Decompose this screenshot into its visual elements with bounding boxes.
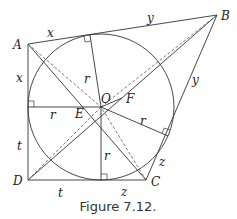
side-bc xyxy=(146,15,217,180)
dashed-do xyxy=(28,107,101,180)
label-ad-x: x xyxy=(16,71,23,85)
radius-top xyxy=(90,35,101,107)
label-o: O xyxy=(101,92,111,106)
label-r-bottom: r xyxy=(104,149,111,163)
label-ab-x: x xyxy=(47,26,54,40)
diagonal-ac xyxy=(28,44,146,180)
label-d: D xyxy=(12,174,23,188)
label-f: F xyxy=(125,92,135,106)
quadrilateral-incircle-diagram: A B C D O E F x y x t t z y z r r r r Fi… xyxy=(0,0,237,219)
label-bc-y: y xyxy=(191,73,199,87)
right-angle-right xyxy=(162,128,170,133)
label-c: C xyxy=(151,175,160,189)
label-ad-t: t xyxy=(17,139,22,153)
right-angle-left xyxy=(28,101,34,107)
label-ab-y: y xyxy=(146,11,154,25)
label-dc-t: t xyxy=(58,186,63,200)
figure-caption: Figure 7.12. xyxy=(80,199,157,214)
label-dc-z: z xyxy=(120,185,128,199)
label-a: A xyxy=(12,38,22,52)
label-r-left: r xyxy=(50,108,57,122)
dashed-ao xyxy=(28,44,101,107)
label-r-top: r xyxy=(84,72,91,86)
label-e: E xyxy=(74,107,84,121)
radius-right xyxy=(101,107,168,136)
label-b: B xyxy=(220,9,230,23)
label-r-right: r xyxy=(140,114,147,128)
dashed-bo xyxy=(101,15,217,107)
label-bc-z: z xyxy=(158,155,166,169)
right-angle-bottom xyxy=(101,174,107,180)
